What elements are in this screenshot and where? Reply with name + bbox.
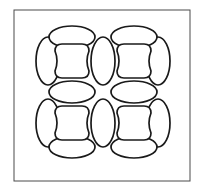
h-ellipse-r1-mid	[111, 81, 157, 103]
cell-bottom-left	[55, 106, 89, 140]
cell-top-right	[117, 44, 151, 78]
background	[0, 0, 202, 192]
v-ellipse-c1-r0	[91, 37, 115, 85]
cell-top-left	[55, 44, 89, 78]
figure-canvas	[0, 0, 202, 192]
h-ellipse-r1-top	[49, 81, 95, 103]
v-ellipse-c1-r1	[91, 99, 115, 147]
lattice-diagram	[0, 0, 202, 192]
cell-bottom-right	[117, 106, 151, 140]
